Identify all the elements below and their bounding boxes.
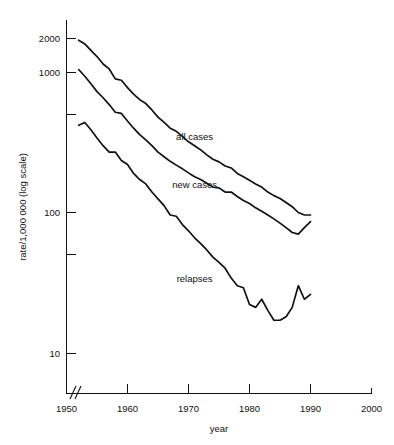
series-label-all-cases: all cases [176,131,213,142]
y-tick-label-10: 10 [49,348,60,359]
x-tick-label-1980: 1980 [239,403,260,414]
x-tick-label-1960: 1960 [117,403,138,414]
series-label-relapses: relapses [177,273,213,284]
y-tick-label-1000: 1000 [39,67,60,78]
y-axis-title: rate/1,000 000 (log scale) [17,153,28,261]
x-tick-label-1990: 1990 [300,403,321,414]
x-axis-title: year [210,423,228,434]
x-tick-label-2000: 2000 [361,403,382,414]
x-tick-label-1950: 1950 [56,403,77,414]
series-line-relapses [79,122,311,320]
series-label-new-cases: new cases [172,179,217,190]
y-axis-ticks: 2000 1000 100 10 [39,33,76,359]
x-axis-ticks: 1950 1960 1970 1980 1990 2000 [56,384,382,414]
x-tick-label-1970: 1970 [178,403,199,414]
y-tick-label-2000: 2000 [39,33,60,44]
log-scale-line-chart: 2000 1000 100 10 1950 1960 1970 1980 199… [0,0,394,445]
y-tick-label-100: 100 [44,207,60,218]
chart-plot-area: 2000 1000 100 10 1950 1960 1970 1980 199… [0,0,394,445]
x-axis-break-icon [70,386,81,399]
